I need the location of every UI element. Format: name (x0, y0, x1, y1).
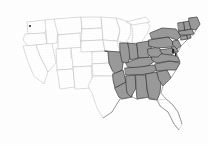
state-arizona (57, 69, 75, 89)
state-mississippi (126, 75, 136, 97)
state-indiana (128, 43, 138, 60)
accent-mark-delmarva (175, 53, 177, 56)
us-map-svg (0, 0, 208, 146)
state-iowa (103, 40, 120, 52)
state-north-dakota (81, 17, 102, 29)
state-florida (158, 99, 182, 130)
state-maine (189, 17, 200, 30)
us-choropleth-map-figure (0, 0, 208, 146)
accent-mark-northwest (29, 25, 31, 27)
accent-mark-chesapeake (172, 49, 174, 53)
state-kansas (92, 51, 109, 64)
state-south-dakota (81, 28, 103, 41)
state-nebraska (81, 40, 105, 52)
state-wyoming (58, 33, 81, 49)
state-montana (54, 17, 82, 35)
